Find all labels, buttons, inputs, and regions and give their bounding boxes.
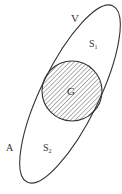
label-g: G (67, 85, 75, 97)
venn-diagram: V S1 G A S2 (0, 0, 122, 194)
label-a: A (6, 142, 14, 153)
label-v: V (71, 12, 79, 24)
label-s2: S2 (43, 142, 52, 154)
label-s1: S1 (89, 38, 98, 50)
